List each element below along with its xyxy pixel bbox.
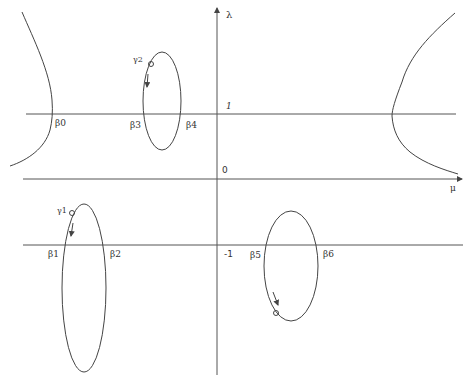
diagram-canvas	[0, 0, 471, 375]
mu-axis-label: μ	[450, 184, 456, 193]
beta4-label: β4	[186, 121, 197, 130]
beta2-label: β2	[110, 250, 121, 259]
lambda-one-label: 1	[226, 102, 232, 111]
beta0-label: β0	[55, 119, 66, 128]
lambda-minus-one-label: -1	[224, 250, 233, 259]
left-branch-curve	[10, 12, 52, 166]
beta5-beta6-direction-arrow	[273, 292, 278, 305]
gamma1-direction-arrow	[71, 223, 73, 236]
lambda-axis-label: λ	[226, 10, 232, 20]
gamma1-label: γ1	[57, 207, 67, 215]
gamma2-direction-arrow	[147, 74, 148, 87]
origin-label: 0	[222, 166, 228, 175]
beta3-label: β3	[130, 121, 141, 130]
beta5-beta6-loop	[264, 211, 318, 321]
beta5-label: β5	[250, 251, 261, 260]
gamma1-loop	[62, 204, 106, 372]
right-branch-curve	[392, 13, 458, 174]
beta6-label: β6	[323, 250, 334, 259]
gamma2-label: γ2	[133, 56, 143, 64]
gamma2-loop	[143, 52, 181, 150]
beta1-label: β1	[48, 250, 59, 259]
